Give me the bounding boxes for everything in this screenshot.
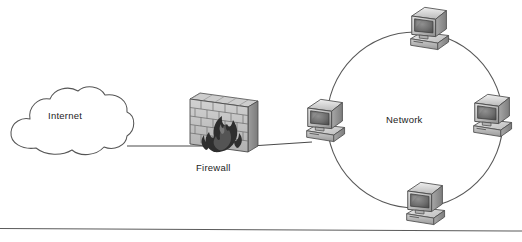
footer-divider bbox=[0, 229, 522, 232]
bottom-computer[interactable] bbox=[407, 182, 445, 224]
firewall-label: Firewall bbox=[196, 162, 231, 173]
internet-label: Internet bbox=[48, 110, 82, 121]
brick-wall-flame-icon bbox=[190, 93, 258, 152]
diagram-svg bbox=[0, 0, 522, 242]
gateway-computer[interactable] bbox=[307, 99, 345, 141]
top-computer[interactable] bbox=[411, 7, 449, 49]
network-diagram-canvas: Internet Firewall Network bbox=[0, 0, 522, 242]
firewall-to-gateway-link bbox=[251, 142, 312, 146]
right-computer[interactable] bbox=[474, 94, 512, 136]
network-label: Network bbox=[386, 114, 423, 125]
